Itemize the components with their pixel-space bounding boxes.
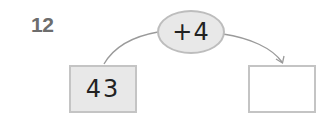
operation-oval: +4 [157, 10, 225, 54]
input-box: 43 [69, 65, 137, 113]
connector-right [223, 34, 282, 62]
answer-box[interactable] [248, 65, 316, 113]
connector-left [104, 32, 158, 64]
